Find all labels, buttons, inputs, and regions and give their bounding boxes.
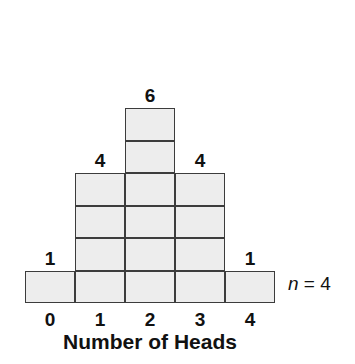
bar-value-label: 1 [225, 249, 275, 268]
histogram-unit-square [175, 206, 225, 239]
x-axis-tick-label: 1 [75, 310, 125, 329]
histogram-unit-square [175, 173, 225, 206]
sample-size-annotation: n = 4 [288, 274, 331, 293]
histogram-unit-square [75, 173, 125, 206]
histogram-unit-square [125, 173, 175, 206]
bar-value-label: 6 [125, 86, 175, 105]
bar-value-label: 4 [75, 151, 125, 170]
x-axis-title: Number of Heads [0, 331, 300, 352]
binomial-histogram-figure: 14641 01234 n = 4 Number of Heads [0, 0, 355, 364]
histogram-unit-square [125, 141, 175, 174]
histogram-unit-square [175, 271, 225, 304]
histogram-unit-square [125, 271, 175, 304]
sample-size-value: = 4 [299, 273, 331, 294]
bar-value-label: 1 [25, 249, 75, 268]
histogram-unit-square [225, 271, 275, 304]
histogram-unit-square [175, 238, 225, 271]
sample-size-variable: n [288, 273, 299, 294]
x-axis-tick-label: 3 [175, 310, 225, 329]
histogram-unit-square [75, 206, 125, 239]
histogram-unit-square [125, 206, 175, 239]
histogram-unit-square [125, 108, 175, 141]
histogram-unit-square [75, 238, 125, 271]
bar-value-label: 4 [175, 151, 225, 170]
x-axis-tick-label: 2 [125, 310, 175, 329]
histogram-unit-square [125, 238, 175, 271]
histogram-unit-square [25, 271, 75, 304]
x-axis-tick-label: 4 [225, 310, 275, 329]
histogram-unit-square [75, 271, 125, 304]
x-axis-tick-label: 0 [25, 310, 75, 329]
